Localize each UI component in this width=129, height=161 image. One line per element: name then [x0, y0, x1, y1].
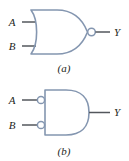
input-label-a: A [8, 94, 16, 106]
and-gate-body [45, 90, 89, 135]
output-inversion-bubble [88, 28, 96, 36]
logic-gate-figure: A B Y (a) A B Y (b) [0, 0, 129, 161]
input-label-b: B [9, 40, 16, 52]
or-gate-body [31, 10, 88, 54]
output-label-y: Y [114, 26, 122, 38]
panel-caption-a: (a) [58, 62, 71, 75]
output-label-y: Y [114, 106, 122, 118]
input-inversion-bubble-b [37, 121, 44, 128]
input-label-a: A [8, 16, 16, 28]
input-label-b: B [9, 119, 16, 131]
panel-b-and-gate-diagram: A B Y (b) [0, 81, 129, 161]
panel-caption-b: (b) [58, 145, 71, 158]
panel-a-nor-gate-diagram: A B Y (a) [0, 0, 129, 78]
input-inversion-bubble-a [37, 96, 44, 103]
